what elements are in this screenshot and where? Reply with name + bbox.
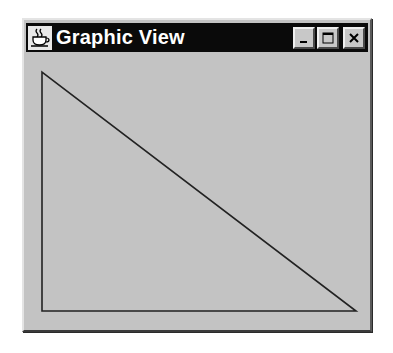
- drawing-canvas: [0, 0, 393, 353]
- triangle-shape: [42, 72, 356, 311]
